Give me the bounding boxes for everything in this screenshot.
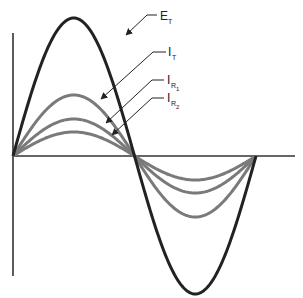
label-IR1: I R 1 [167, 73, 180, 92]
svg-text:I: I [167, 73, 170, 87]
svg-text:1: 1 [176, 86, 180, 92]
svg-text:I: I [168, 45, 171, 59]
svg-text:T: T [172, 54, 177, 61]
svg-text:I: I [167, 91, 170, 105]
svg-text:E: E [160, 9, 168, 23]
svg-text:2: 2 [176, 104, 180, 110]
svg-text:T: T [168, 18, 173, 25]
label-ET: E T [160, 9, 173, 25]
leader-ET [126, 15, 157, 35]
label-IT: I T [168, 45, 177, 61]
label-IR2: I R 2 [167, 91, 180, 110]
waveform-diagram: E T I T I R 1 I R 2 [0, 0, 303, 298]
